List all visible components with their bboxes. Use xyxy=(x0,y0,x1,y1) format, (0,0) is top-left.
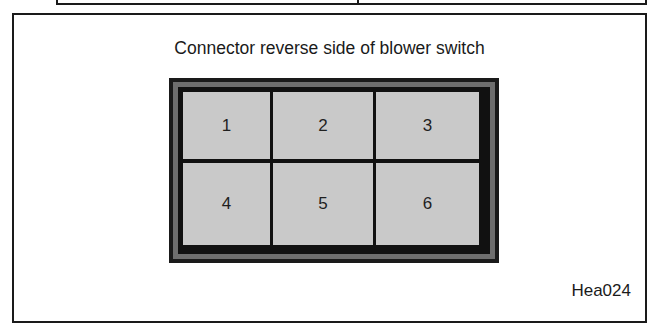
pin-cell-2: 2 xyxy=(273,92,373,159)
pin-cell-1: 1 xyxy=(183,92,270,159)
previous-table-edge xyxy=(56,0,647,5)
pin-cell-6: 6 xyxy=(376,163,479,245)
diagram-frame: Connector reverse side of blower switch … xyxy=(12,13,647,323)
pin-cell-4: 4 xyxy=(183,163,270,245)
figure-reference-code: Hea024 xyxy=(571,281,631,301)
pin-cell-3: 3 xyxy=(376,92,479,159)
table-column-divider xyxy=(357,0,359,3)
diagram-title: Connector reverse side of blower switch xyxy=(14,38,645,58)
connector-housing: 1 2 3 4 5 6 xyxy=(169,78,499,263)
pin-cell-5: 5 xyxy=(273,163,373,245)
connector-pin-grid: 1 2 3 4 5 6 xyxy=(178,87,490,254)
